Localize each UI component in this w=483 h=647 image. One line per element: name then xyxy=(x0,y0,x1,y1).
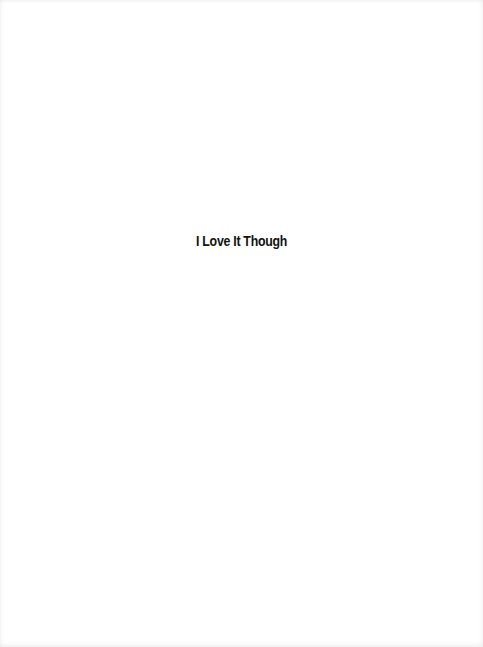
page-title: I Love It Though xyxy=(29,233,454,249)
document-page: I Love It Though xyxy=(0,0,483,647)
